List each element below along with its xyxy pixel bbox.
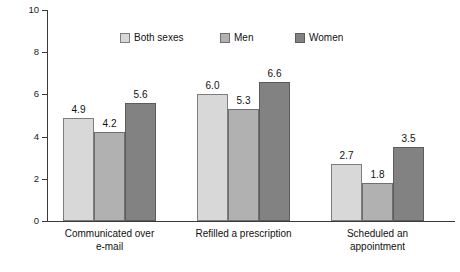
bar-value-0-0: 4.9	[59, 105, 99, 115]
x-axis-line	[47, 221, 455, 222]
category-label-2: Scheduled anappointment	[303, 228, 453, 253]
category-label-0-line-1: e-mail	[35, 241, 185, 254]
bar-2-2	[393, 147, 424, 221]
legend-item-1[interactable]: Men	[220, 33, 253, 43]
bar-value-2-1: 1.8	[358, 170, 398, 180]
category-label-2-line-0: Scheduled an	[303, 228, 453, 241]
legend-label-2: Women	[309, 33, 343, 43]
category-label-1: Refilled a prescription	[169, 228, 319, 241]
legend-swatch-icon-2	[295, 33, 305, 43]
bar-value-0-2: 5.6	[121, 90, 161, 100]
bar-1-1	[228, 109, 259, 221]
category-label-1-line-0: Refilled a prescription	[169, 228, 319, 241]
category-label-2-line-1: appointment	[303, 241, 453, 254]
y-tick-label-0: 0	[0, 216, 39, 225]
bar-0-0	[63, 118, 94, 221]
legend-swatch-icon-0	[120, 33, 130, 43]
legend-item-2[interactable]: Women	[295, 33, 343, 43]
bar-value-0-1: 4.2	[90, 119, 130, 129]
bar-value-1-2: 6.6	[255, 69, 295, 79]
y-tick-label-6: 6	[0, 89, 39, 98]
legend-label-0: Both sexes	[134, 33, 183, 43]
legend-label-1: Men	[234, 33, 253, 43]
y-tick-label-4: 4	[0, 132, 39, 141]
bar-0-2	[125, 103, 156, 221]
y-tick-label-8: 8	[0, 47, 39, 56]
y-tick-label-2: 2	[0, 174, 39, 183]
bar-value-1-1: 5.3	[224, 96, 264, 106]
y-tick-label-10: 10	[0, 5, 39, 14]
bar-1-0	[197, 94, 228, 221]
legend-item-0[interactable]: Both sexes	[120, 33, 183, 43]
bar-0-1	[94, 132, 125, 221]
bar-value-2-0: 2.7	[327, 151, 367, 161]
bar-1-2	[259, 82, 290, 221]
y-tick-0	[42, 221, 47, 222]
legend-swatch-icon-1	[220, 33, 230, 43]
category-label-0-line-0: Communicated over	[35, 228, 185, 241]
bar-value-2-2: 3.5	[389, 134, 429, 144]
bar-value-1-0: 6.0	[193, 81, 233, 91]
bar-chart: Percent 0246810 4.94.25.66.05.36.62.71.8…	[0, 0, 460, 272]
bar-2-1	[362, 183, 393, 221]
category-label-0: Communicated overe-mail	[35, 228, 185, 253]
